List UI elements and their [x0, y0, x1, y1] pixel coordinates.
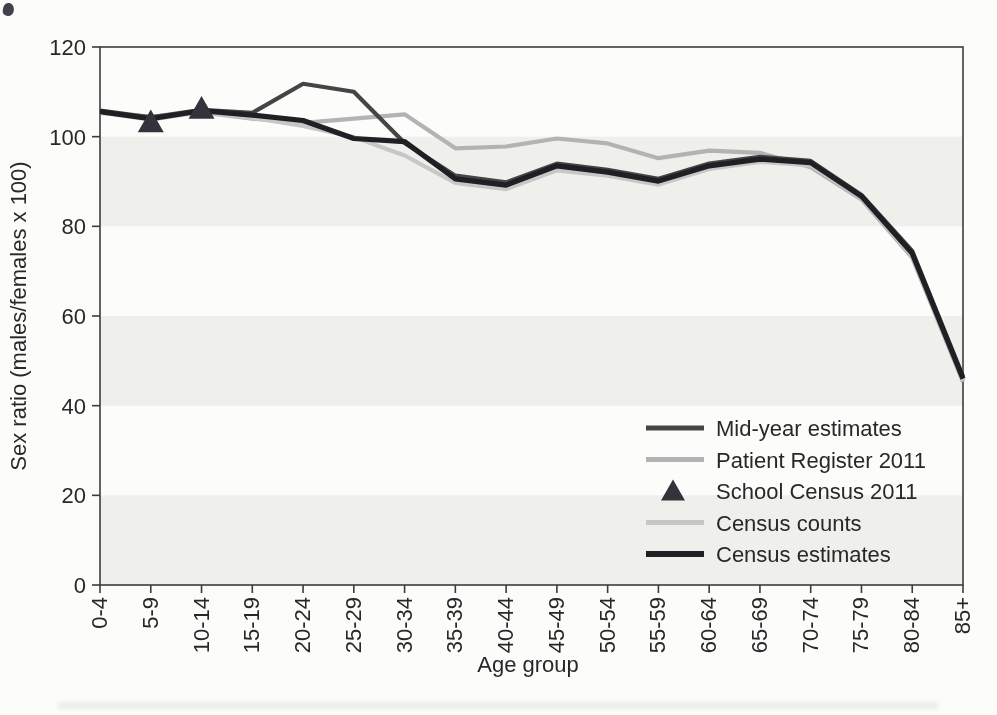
- x-tick-label: 20-24: [290, 597, 315, 653]
- x-tick-label: 75-79: [848, 597, 873, 653]
- y-tick-label: 60: [62, 304, 86, 329]
- sex-ratio-line-chart: 0204060801001200-45-910-1415-1920-2425-2…: [0, 0, 997, 715]
- x-tick-label: 35-39: [442, 597, 467, 653]
- x-tick-label: 65-69: [747, 597, 772, 653]
- y-axis-title: Sex ratio (males/females x 100): [6, 161, 31, 470]
- legend-swatch-school-census-2011: [661, 480, 685, 501]
- x-tick-label: 10-14: [189, 597, 214, 653]
- y-tick-label: 100: [49, 125, 86, 150]
- y-tick-label: 80: [62, 214, 86, 239]
- series-marker-school-census-2011: [138, 110, 164, 133]
- plot-band: [100, 316, 963, 406]
- plot-band: [100, 495, 963, 585]
- page-bleed-through: [58, 702, 938, 709]
- x-tick-label: 60-64: [696, 597, 721, 653]
- x-tick-label: 0-4: [87, 597, 112, 629]
- y-tick-label: 20: [62, 483, 86, 508]
- y-tick-label: 40: [62, 394, 86, 419]
- legend-label-patient-register-2011: Patient Register 2011: [716, 448, 926, 473]
- x-tick-label: 55-59: [645, 597, 670, 653]
- x-tick-label: 85+: [950, 597, 975, 634]
- x-axis-title: Age group: [477, 652, 579, 677]
- legend-label-mid-year-estimates: Mid-year estimates: [716, 416, 902, 441]
- x-tick-label: 80-84: [899, 597, 924, 653]
- scanned-figure-page: 0204060801001200-45-910-1415-1920-2425-2…: [0, 0, 997, 715]
- y-tick-label: 120: [49, 35, 86, 60]
- y-tick-label: 0: [74, 573, 86, 598]
- x-tick-label: 30-34: [392, 597, 417, 653]
- legend-label-census-counts: Census counts: [716, 511, 862, 536]
- x-tick-label: 5-9: [138, 597, 163, 629]
- x-tick-label: 15-19: [239, 597, 264, 653]
- legend-label-school-census-2011: School Census 2011: [716, 479, 917, 504]
- legend-label-census-estimates: Census estimates: [716, 542, 891, 567]
- x-tick-label: 45-49: [544, 597, 569, 653]
- series-marker-school-census-2011: [189, 96, 215, 119]
- x-tick-label: 50-54: [595, 597, 620, 653]
- x-tick-label: 25-29: [341, 597, 366, 653]
- x-tick-label: 70-74: [798, 597, 823, 653]
- x-tick-label: 40-44: [493, 597, 518, 653]
